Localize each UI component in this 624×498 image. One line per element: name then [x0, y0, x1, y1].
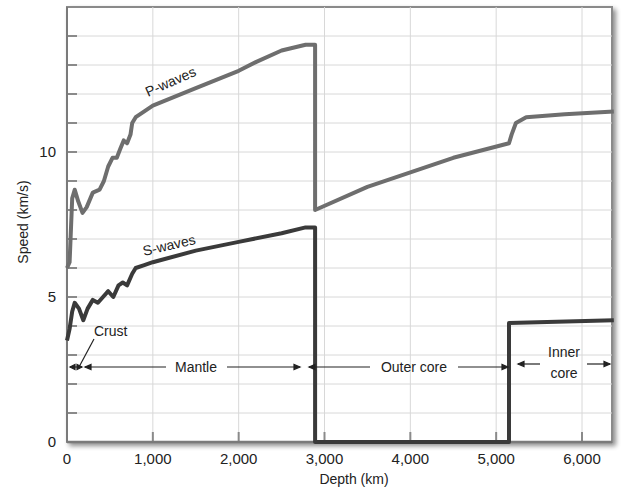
y-tick-labels: 0510	[39, 143, 56, 450]
y-tick-label: 10	[39, 143, 56, 160]
seismic-wave-speed-chart: P-waves S-waves 01,0002,0003,0004,0005,0…	[0, 0, 624, 498]
outer-core-label: Outer core	[381, 359, 447, 375]
x-tick-label: 6,000	[563, 450, 601, 467]
inner-core-label-line2: core	[550, 365, 577, 381]
y-axis-title: Speed (km/s)	[15, 180, 31, 263]
x-tick-label: 2,000	[220, 450, 258, 467]
x-tick-label: 5,000	[477, 450, 515, 467]
x-tick-label: 1,000	[134, 450, 172, 467]
x-axis-title: Depth (km)	[319, 471, 388, 487]
inner-core-label-line1: Inner	[548, 344, 580, 360]
x-tick-label: 4,000	[392, 450, 430, 467]
y-tick-label: 5	[48, 288, 56, 305]
x-tick-label: 0	[63, 450, 71, 467]
crust-label: Crust	[94, 323, 128, 339]
y-tick-label: 0	[48, 433, 56, 450]
x-tick-labels: 01,0002,0003,0004,0005,0006,000	[63, 450, 601, 467]
mantle-label: Mantle	[175, 359, 217, 375]
x-tick-label: 3,000	[306, 450, 344, 467]
plot-area	[67, 7, 612, 442]
